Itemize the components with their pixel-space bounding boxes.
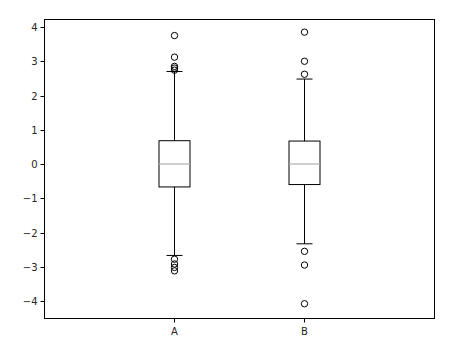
- plot-area: [159, 29, 320, 307]
- x-axis: AB: [171, 319, 308, 337]
- outlier-marker: [301, 262, 307, 268]
- y-tick-label: −1: [23, 193, 38, 204]
- y-tick-label: 3: [31, 56, 37, 67]
- axes-frame: [45, 20, 435, 319]
- x-tick-label: B: [301, 326, 308, 337]
- outlier-marker: [301, 301, 307, 307]
- y-tick-label: −4: [23, 296, 38, 307]
- y-axis: 43210−1−2−3−4: [23, 22, 45, 307]
- outlier-marker: [301, 248, 307, 254]
- box-a: [159, 32, 190, 274]
- y-tick-label: 0: [31, 159, 37, 170]
- box-b: [289, 29, 320, 307]
- outlier-marker: [301, 71, 307, 77]
- outlier-marker: [301, 58, 307, 64]
- y-tick-label: 4: [31, 22, 37, 33]
- outlier-marker: [301, 29, 307, 35]
- y-tick-label: −3: [23, 262, 38, 273]
- boxplot-chart: 43210−1−2−3−4 AB: [0, 0, 456, 350]
- iqr-box: [289, 141, 320, 184]
- x-tick-label: A: [171, 326, 178, 337]
- y-tick-label: 2: [31, 91, 37, 102]
- y-tick-label: −2: [23, 228, 38, 239]
- outlier-marker: [171, 32, 177, 38]
- y-tick-label: 1: [31, 125, 37, 136]
- outlier-marker: [171, 54, 177, 60]
